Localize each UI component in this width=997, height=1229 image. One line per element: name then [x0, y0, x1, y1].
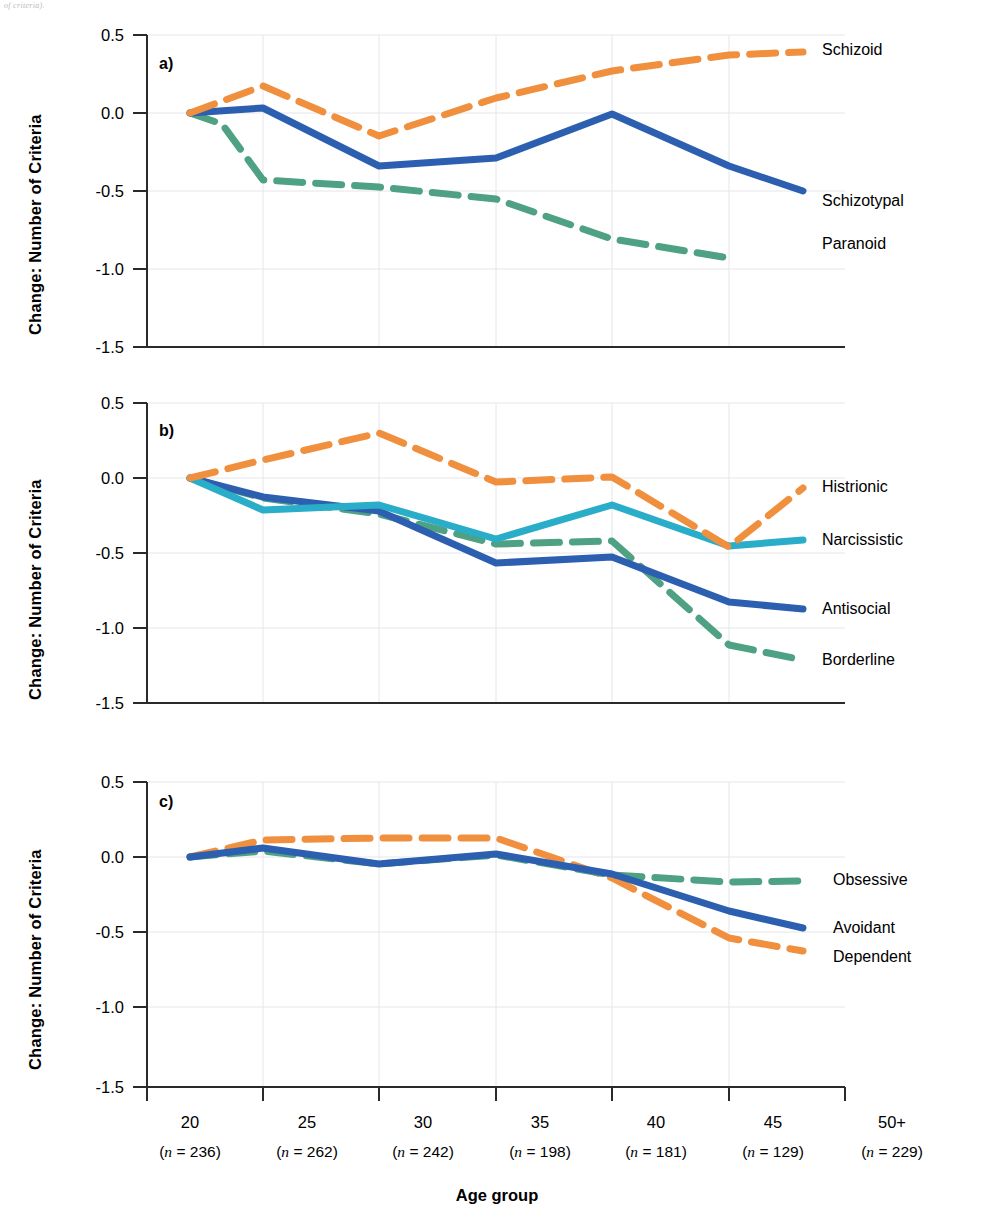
- y-axis-ticks-b: [133, 403, 147, 703]
- ytick-b-3: -1.0: [72, 619, 124, 638]
- series-label-histrionic: Histrionic: [822, 478, 888, 496]
- series-label-schizotypal: Schizotypal: [822, 192, 904, 210]
- n-value-2: = 242): [409, 1143, 453, 1160]
- ytick-a-3: -1.0: [72, 260, 124, 279]
- n-italic-3: n: [514, 1143, 522, 1160]
- xtick-n-3: (n = 198): [509, 1143, 571, 1161]
- xtick-label-4: 40: [647, 1113, 665, 1132]
- xtick-label-1: 25: [298, 1113, 316, 1132]
- n-italic-0: n: [164, 1143, 172, 1160]
- series-label-borderline: Borderline: [822, 651, 895, 669]
- n-italic-6: n: [866, 1143, 874, 1160]
- xtick-n-6: (n = 229): [861, 1143, 923, 1161]
- n-value-6: = 229): [878, 1143, 922, 1160]
- figure-root: of criteria). Change: Number of Criteria…: [0, 0, 997, 1229]
- series-label-avoidant: Avoidant: [833, 919, 895, 937]
- ytick-c-2: -0.5: [72, 923, 124, 942]
- xtick-label-6: 50+: [878, 1113, 906, 1132]
- ytick-a-0: 0.5: [72, 26, 124, 45]
- ytick-c-1: 0.0: [72, 848, 124, 867]
- n-value-4: = 181): [642, 1143, 686, 1160]
- xtick-n-1: (n = 262): [276, 1143, 338, 1161]
- n-italic-5: n: [747, 1143, 755, 1160]
- series-label-dependent: Dependent: [833, 948, 911, 966]
- n-value-3: = 198): [526, 1143, 570, 1160]
- n-italic-2: n: [397, 1143, 405, 1160]
- ytick-b-1: 0.0: [72, 469, 124, 488]
- ytick-a-4: -1.5: [72, 338, 124, 357]
- x-axis-ticks-bottom: [0, 1087, 997, 1105]
- series-label-antisocial: Antisocial: [822, 600, 890, 618]
- series-label-narcissistic: Narcissistic: [822, 531, 903, 549]
- xtick-label-3: 35: [531, 1113, 549, 1132]
- n-value-1: = 262): [293, 1143, 337, 1160]
- xtick-n-5: (n = 129): [742, 1143, 804, 1161]
- xtick-label-0: 20: [181, 1113, 199, 1132]
- ytick-b-2: -0.5: [72, 544, 124, 563]
- ytick-b-0: 0.5: [72, 394, 124, 413]
- series-label-schizoid: Schizoid: [822, 41, 882, 59]
- panel-b-plot: [0, 370, 997, 730]
- n-italic-4: n: [630, 1143, 638, 1160]
- xtick-n-2: (n = 242): [392, 1143, 454, 1161]
- series-line-paranoid: [190, 113, 729, 258]
- xtick-label-5: 45: [764, 1113, 782, 1132]
- n-italic-1: n: [281, 1143, 289, 1160]
- series-label-paranoid: Paranoid: [822, 235, 886, 253]
- ytick-b-4: -1.5: [72, 694, 124, 713]
- n-value-5: = 129): [759, 1143, 803, 1160]
- n-value-0: = 236): [176, 1143, 220, 1160]
- ytick-a-2: -0.5: [72, 182, 124, 201]
- xtick-n-0: (n = 236): [159, 1143, 221, 1161]
- ytick-a-1: 0.0: [72, 104, 124, 123]
- series-label-obsessive: Obsessive: [833, 871, 908, 889]
- ytick-c-0: 0.5: [72, 773, 124, 792]
- y-axis-ticks-c: [133, 782, 147, 1087]
- xtick-label-2: 30: [414, 1113, 432, 1132]
- xtick-n-4: (n = 181): [625, 1143, 687, 1161]
- y-axis-ticks-a: [133, 35, 147, 347]
- x-axis-title: Age group: [456, 1186, 539, 1205]
- ytick-c-3: -1.0: [72, 998, 124, 1017]
